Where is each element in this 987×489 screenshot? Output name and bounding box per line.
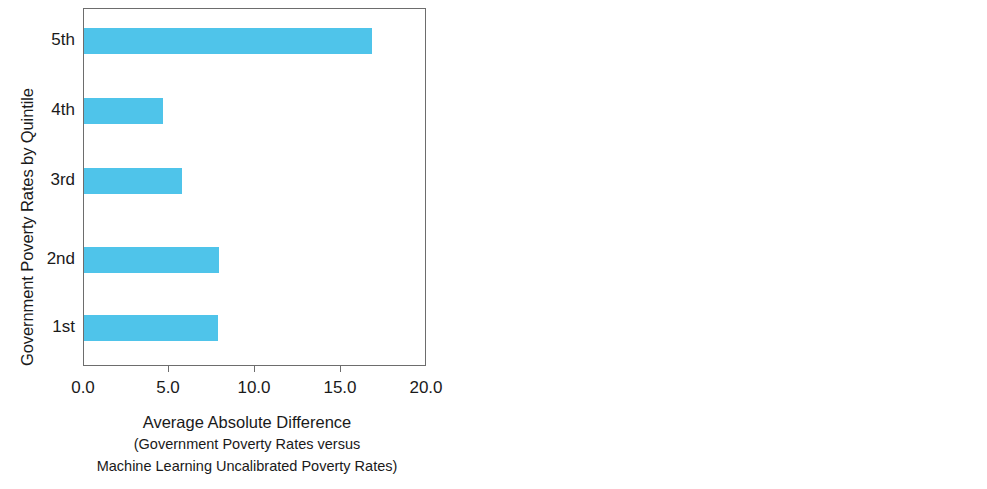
x-axis-subtitle-left-line2: Machine Learning Uncalibrated Poverty Ra… [0,456,494,476]
bar-left-5th [84,28,372,54]
plot-area-left [83,8,426,366]
chart-panel-right: Government Poverty Rates by Quintile 5th… [493,0,987,489]
bar-left-4th [84,98,163,124]
y-tick-label-left-3rd: 3rd [23,167,75,193]
chart-panel-left: Government Poverty Rates by Quintile 5th… [0,0,494,489]
x-tick-mark-left-3 [340,366,341,372]
x-tick-label-left-3: 15.0 [305,378,375,398]
x-tick-label-left-0: 0.0 [48,378,118,398]
two-panel-bar-chart-figure: Government Poverty Rates by Quintile 5th… [0,0,987,489]
bar-left-2nd [84,247,219,273]
y-tick-label-left-2nd: 2nd [23,246,75,272]
x-tick-label-left-1: 5.0 [133,378,203,398]
x-axis-title-left: Average Absolute Difference [0,411,494,433]
x-tick-mark-left-1 [168,366,169,372]
x-axis-subtitle-right-line2: Machine Learning Uncalibrated Poverty Ra… [976,456,987,476]
y-tick-label-left-1st: 1st [23,314,75,340]
x-tick-label-left-4: 20.0 [391,378,461,398]
bar-left-3rd [84,168,182,194]
bar-left-1st [84,315,218,341]
y-tick-label-left-5th: 5th [23,27,75,53]
x-axis-subtitle-left-line1: (Government Poverty Rates versus [0,434,494,454]
y-tick-label-left-4th: 4th [23,97,75,123]
x-tick-label-left-2: 10.0 [219,378,289,398]
x-tick-mark-left-2 [254,366,255,372]
